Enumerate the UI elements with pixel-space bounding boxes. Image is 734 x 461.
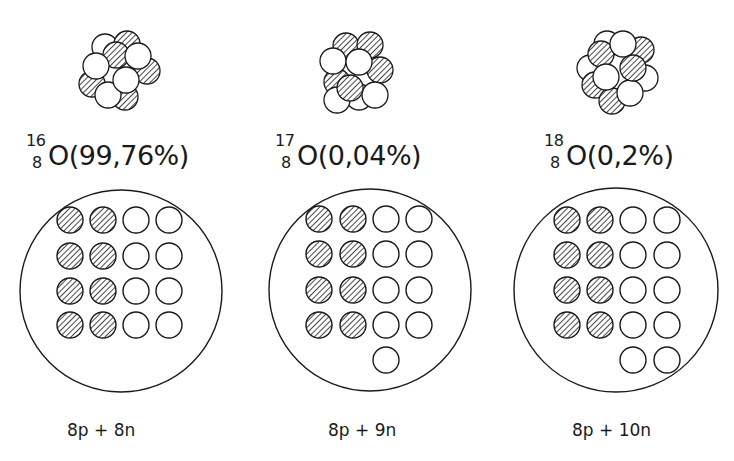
composition-label-o16: 8p + 8n (67, 420, 135, 440)
atomic-number: 8 (281, 153, 291, 172)
composition-label-o17: 8p + 9n (328, 420, 396, 440)
isotope-label-o17: 17 8 O(0,04%) (275, 140, 421, 171)
nucleus-model-o18 (514, 188, 718, 392)
nucleus-cluster-o16 (79, 31, 160, 110)
nucleus-cluster-o18 (577, 31, 658, 114)
mass-number: 16 (26, 131, 45, 150)
element-symbol: O (566, 140, 587, 171)
atomic-number: 8 (32, 153, 42, 172)
nuclide-notation: 16 8 (26, 141, 48, 171)
element-symbol: O (48, 140, 69, 171)
element-symbol: O (297, 140, 318, 171)
mass-number: 18 (544, 131, 563, 150)
nucleus-model-o17 (269, 189, 471, 391)
isotope-label-o18: 18 8 O(0,2%) (544, 140, 673, 171)
isotope-label-o16: 16 8 O(99,76%) (26, 140, 189, 171)
mass-number: 17 (275, 131, 294, 150)
abundance: (0,2%) (587, 140, 674, 171)
nuclide-notation: 18 8 (544, 141, 566, 171)
abundance: (99,76%) (69, 140, 189, 171)
atomic-number: 8 (550, 153, 560, 172)
isotope-diagram (0, 0, 734, 461)
nucleus-cluster-o17 (320, 32, 393, 113)
abundance: (0,04%) (318, 140, 421, 171)
nucleus-model-o16 (20, 190, 222, 392)
nuclide-notation: 17 8 (275, 141, 297, 171)
composition-label-o18: 8p + 10n (572, 420, 651, 440)
